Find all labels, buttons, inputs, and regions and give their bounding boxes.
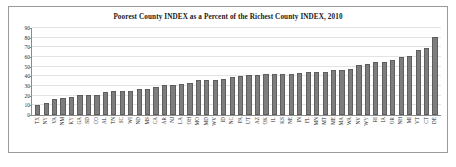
bar-slot: MN	[312, 28, 320, 115]
x-tick-label: SC	[120, 117, 125, 123]
x-tick-label: GA	[77, 117, 82, 125]
bar-slot: NY	[42, 28, 50, 115]
x-tick: NM	[59, 115, 67, 145]
y-tick-mark	[30, 115, 32, 116]
x-tick-label: TN	[111, 117, 116, 124]
bar	[35, 105, 40, 115]
bar-slot: CT	[422, 28, 430, 115]
bar	[238, 76, 243, 115]
x-tick: TX	[34, 115, 42, 145]
bar	[196, 80, 201, 115]
bar-slot: MS	[143, 28, 151, 115]
x-tick-label: NH	[399, 117, 404, 125]
bar-slot: VA	[50, 28, 58, 115]
x-tick-label: WY	[365, 117, 370, 126]
bar	[255, 75, 260, 115]
plot-area: 0102030405060708090 TXNYVANMKYGASDCOALTN…	[31, 28, 441, 116]
x-tick: TN	[110, 115, 118, 145]
bar-slot: WI	[126, 28, 134, 115]
x-tick: UT	[245, 115, 253, 145]
x-tick-label: OH	[187, 117, 192, 125]
bar	[86, 95, 91, 115]
bar	[111, 91, 116, 115]
bar	[103, 92, 108, 115]
x-tick-label: NM	[60, 117, 65, 125]
bar-slot: UT	[245, 28, 253, 115]
x-tick-label: WA	[348, 117, 353, 125]
x-tick: LA	[177, 115, 185, 145]
x-tick: AZ	[253, 115, 261, 145]
x-tick: FL	[304, 115, 312, 145]
bar	[230, 77, 235, 115]
x-tick-label: LA	[179, 117, 184, 124]
bar-slot: IN	[296, 28, 304, 115]
x-tick-label: UT	[246, 117, 251, 124]
bar	[280, 74, 285, 115]
x-tick-label: NC	[230, 117, 235, 124]
bar	[213, 80, 218, 115]
bar-slot: ND	[135, 28, 143, 115]
bar	[399, 57, 404, 115]
bar-slot: AZ	[253, 28, 261, 115]
bar-slot: IA	[380, 28, 388, 115]
bar-slot: OR	[389, 28, 397, 115]
x-tick: NJ	[169, 115, 177, 145]
bar	[373, 62, 378, 115]
bar-slot: WY	[363, 28, 371, 115]
bar-slot: CA	[152, 28, 160, 115]
bar-slot: MD	[203, 28, 211, 115]
x-tick: NH	[397, 115, 405, 145]
x-tick-label: NY	[44, 117, 49, 125]
x-tick-label: VT	[416, 117, 421, 124]
x-tick-label: MT	[323, 117, 328, 125]
bar	[323, 72, 328, 116]
x-tick: VA	[50, 115, 58, 145]
x-tick-label: RI	[373, 117, 378, 122]
bar-slot: KY	[67, 28, 75, 115]
x-tick: PA	[236, 115, 244, 145]
bar	[77, 95, 82, 115]
y-tick-label: 50	[25, 64, 30, 70]
x-tick-label: ID	[221, 117, 226, 122]
bar	[297, 73, 302, 115]
x-tick: MD	[203, 115, 211, 145]
x-tick-label: SD	[86, 117, 91, 124]
bar-slot: KS	[279, 28, 287, 115]
x-tick-label: NV	[356, 117, 361, 125]
y-tick-label: 10	[25, 102, 30, 108]
bar-slot: RI	[372, 28, 380, 115]
x-tick-label: CA	[153, 117, 158, 124]
bar	[128, 91, 133, 115]
x-tick: SD	[84, 115, 92, 145]
bar-slot: FL	[304, 28, 312, 115]
bar	[69, 97, 74, 115]
x-tick-label: PA	[238, 117, 243, 123]
bar-slot: OK	[262, 28, 270, 115]
x-tick-label: IN	[297, 117, 302, 122]
x-tick-label: AZ	[255, 117, 260, 124]
x-tick: NY	[42, 115, 50, 145]
bar-slot: ME	[329, 28, 337, 115]
x-tick-label: MN	[314, 117, 319, 125]
x-tick: WI	[126, 115, 134, 145]
bar-slot: NM	[59, 28, 67, 115]
x-tick: OR	[389, 115, 397, 145]
bar	[94, 95, 99, 115]
x-tick: IN	[296, 115, 304, 145]
bar	[153, 87, 158, 115]
bar-slot: MO	[194, 28, 202, 115]
x-tick: WY	[363, 115, 371, 145]
bar	[145, 89, 150, 115]
bar	[246, 75, 251, 115]
x-tick-label: CO	[94, 117, 99, 124]
bar-slot: NE	[287, 28, 295, 115]
bar-slot: CO	[93, 28, 101, 115]
x-tick-label: MD	[204, 117, 209, 125]
y-tick-label: 70	[25, 44, 30, 50]
x-tick-label: NE	[289, 117, 294, 124]
bar	[339, 70, 344, 115]
y-tick-label: 60	[25, 54, 30, 60]
y-tick-label: 90	[25, 25, 30, 31]
bar-slot: LA	[177, 28, 185, 115]
x-tick: CO	[93, 115, 101, 145]
